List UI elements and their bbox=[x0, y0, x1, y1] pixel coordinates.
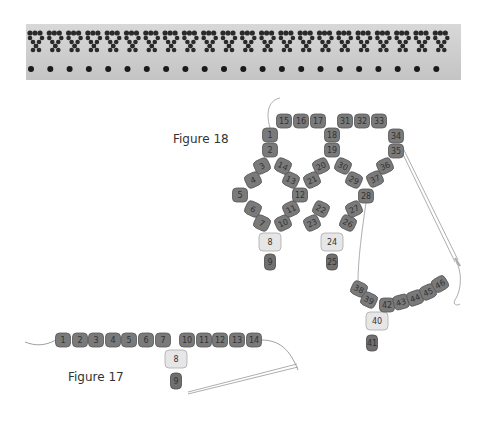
bead-number: 6 bbox=[143, 336, 148, 345]
bead-number: 18 bbox=[327, 131, 337, 140]
bead-8: 8 bbox=[259, 233, 281, 251]
bead-number: 33 bbox=[374, 117, 384, 126]
bead-number: 15 bbox=[279, 117, 289, 126]
bead-number: 34 bbox=[391, 132, 401, 141]
bead-11: 11 bbox=[197, 333, 212, 347]
bead-number: 31 bbox=[340, 117, 350, 126]
bead-25: 25 bbox=[327, 254, 338, 270]
bead-2: 2 bbox=[73, 333, 88, 347]
bead-33: 33 bbox=[372, 114, 387, 128]
bead-number: 16 bbox=[296, 117, 306, 126]
figure-17-beads: 1234567891011121314 bbox=[56, 333, 262, 389]
bead-number: 2 bbox=[267, 146, 272, 155]
bead-14: 14 bbox=[247, 333, 262, 347]
figure-18-beads: 1234567891011121314151617181920212223242… bbox=[233, 114, 450, 351]
bead-number: 41 bbox=[367, 339, 377, 348]
bead-9: 9 bbox=[265, 254, 276, 270]
bead-10: 10 bbox=[180, 333, 195, 347]
thread bbox=[454, 262, 460, 305]
thread bbox=[358, 203, 366, 282]
bead-13: 13 bbox=[230, 333, 245, 347]
bead-number: 9 bbox=[173, 377, 178, 386]
bead-number: 25 bbox=[327, 258, 337, 267]
bead-1: 1 bbox=[263, 128, 278, 142]
bead-number: 12 bbox=[215, 336, 225, 345]
bead-3: 3 bbox=[89, 333, 104, 347]
bead-6: 6 bbox=[139, 333, 154, 347]
bead-number: 19 bbox=[327, 146, 337, 155]
bead-17: 17 bbox=[311, 114, 326, 128]
bead-12: 12 bbox=[293, 188, 308, 202]
thread bbox=[401, 144, 458, 260]
bead-number: 42 bbox=[382, 301, 392, 310]
bead-number: 10 bbox=[182, 336, 192, 345]
bead-35: 35 bbox=[389, 144, 404, 158]
bead-34: 34 bbox=[389, 129, 404, 143]
bead-4: 4 bbox=[106, 333, 121, 347]
bead-number: 1 bbox=[267, 131, 272, 140]
bead-1: 1 bbox=[56, 333, 71, 347]
bead-number: 24 bbox=[327, 238, 337, 247]
bead-8: 8 bbox=[165, 350, 187, 368]
bead-40: 40 bbox=[366, 312, 388, 330]
bead-number: 12 bbox=[295, 191, 305, 200]
bead-32: 32 bbox=[355, 114, 370, 128]
bead-28: 28 bbox=[359, 189, 374, 203]
bead-16: 16 bbox=[294, 114, 309, 128]
bead-number: 5 bbox=[237, 191, 242, 200]
bead-number: 28 bbox=[361, 192, 371, 201]
bead-42: 42 bbox=[380, 298, 395, 312]
bead-number: 2 bbox=[77, 336, 82, 345]
bead-24: 24 bbox=[321, 233, 343, 251]
bead-number: 9 bbox=[267, 258, 272, 267]
bead-2: 2 bbox=[263, 143, 278, 157]
bead-31: 31 bbox=[338, 114, 353, 128]
bead-18: 18 bbox=[325, 128, 340, 142]
bead-41: 41 bbox=[367, 335, 378, 351]
beading-diagram: 1234567891011121314151617181920212223242… bbox=[0, 0, 484, 424]
bead-23: 23 bbox=[302, 213, 322, 232]
bead-5: 5 bbox=[233, 188, 248, 202]
bead-number: 8 bbox=[267, 238, 272, 247]
bead-7: 7 bbox=[156, 333, 171, 347]
thread bbox=[398, 144, 455, 262]
bead-number: 3 bbox=[93, 336, 98, 345]
bead-12: 12 bbox=[213, 333, 228, 347]
needle bbox=[188, 367, 298, 394]
bead-19: 19 bbox=[325, 143, 340, 157]
bead-number: 5 bbox=[126, 336, 131, 345]
bead-number: 1 bbox=[60, 336, 65, 345]
bead-number: 35 bbox=[391, 147, 401, 156]
bead-9: 9 bbox=[171, 373, 182, 389]
bead-number: 8 bbox=[173, 355, 178, 364]
bead-number: 11 bbox=[199, 336, 209, 345]
bead-number: 32 bbox=[357, 117, 367, 126]
bead-number: 14 bbox=[249, 336, 259, 345]
thread bbox=[25, 340, 56, 345]
bead-5: 5 bbox=[122, 333, 137, 347]
bead-15: 15 bbox=[277, 114, 292, 128]
bead-number: 40 bbox=[372, 317, 382, 326]
bead-number: 17 bbox=[313, 117, 323, 126]
needle bbox=[188, 364, 297, 392]
bead-number: 13 bbox=[232, 336, 242, 345]
bead-number: 4 bbox=[110, 336, 115, 345]
bead-number: 7 bbox=[160, 336, 165, 345]
